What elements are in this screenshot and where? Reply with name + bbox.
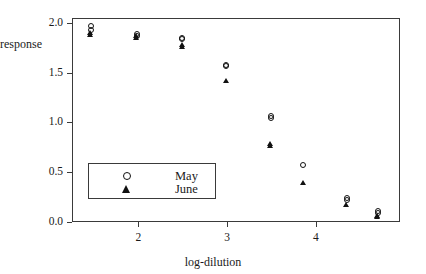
data-point-june (343, 202, 349, 207)
y-tick-label: 1.0 (37, 116, 63, 128)
data-point-june (374, 214, 380, 219)
legend-label-may: May (175, 170, 198, 183)
x-tick (138, 222, 139, 227)
x-tick-label: 4 (304, 232, 328, 244)
x-tick-label: 2 (126, 232, 150, 244)
y-tick (67, 222, 72, 223)
data-point-june (300, 180, 306, 185)
legend-label-june: June (175, 183, 198, 196)
data-point-june (133, 35, 139, 40)
y-tick (67, 23, 72, 24)
legend-box: May June (88, 163, 216, 199)
data-point-june (179, 44, 185, 49)
y-tick-label: 1.5 (37, 67, 63, 79)
scatter-plot-figure: response 0.00.51.01.52.0234 May June log… (0, 0, 426, 274)
legend-entry-may: May (117, 170, 198, 183)
triangle-icon (117, 183, 137, 195)
data-point-june (267, 143, 273, 148)
legend-entry-june: June (117, 183, 198, 196)
x-tick-label: 3 (215, 232, 239, 244)
x-axis-label: log-dilution (0, 255, 426, 270)
x-tick (316, 222, 317, 227)
data-point-june (223, 78, 229, 83)
y-tick-label: 0.5 (37, 166, 63, 178)
y-tick (67, 172, 72, 173)
y-axis-label: response (0, 37, 35, 52)
data-point-may (268, 115, 274, 121)
data-point-june (87, 32, 93, 37)
data-point-may (223, 63, 229, 69)
y-tick-label: 2.0 (37, 17, 63, 29)
open-circle-icon (117, 170, 137, 182)
y-tick (67, 122, 72, 123)
x-tick (227, 222, 228, 227)
y-tick (67, 73, 72, 74)
y-tick-label: 0.0 (37, 216, 63, 228)
